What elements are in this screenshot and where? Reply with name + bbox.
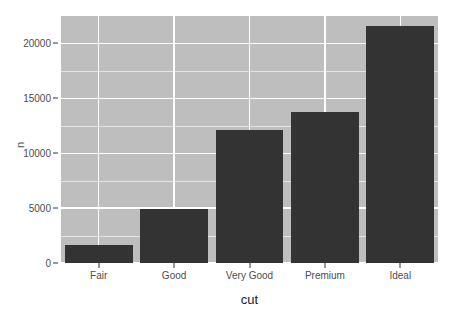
y-tick-mark	[53, 153, 58, 154]
y-tick-label: 20000	[23, 38, 51, 49]
x-tick-mark	[400, 263, 401, 268]
y-tick-mark	[53, 263, 58, 264]
plot-panel	[61, 16, 438, 263]
x-tick-mark	[324, 263, 325, 268]
bar-good	[140, 209, 208, 263]
y-axis: 05000100001500020000	[0, 0, 61, 319]
x-tick-mark	[174, 263, 175, 268]
y-tick-label: 10000	[23, 148, 51, 159]
x-tick-label-fair: Fair	[90, 270, 107, 281]
y-tick-mark	[53, 98, 58, 99]
bar-ideal	[366, 26, 434, 263]
x-axis: FairGoodVery GoodPremiumIdeal	[61, 263, 438, 293]
x-tick-label-premium: Premium	[305, 270, 345, 281]
bar-premium	[291, 112, 359, 263]
y-tick-label: 15000	[23, 93, 51, 104]
x-tick-label-ideal: Ideal	[389, 270, 411, 281]
x-axis-title: cut	[61, 292, 438, 307]
y-tick-label: 5000	[29, 203, 51, 214]
x-tick-mark	[249, 263, 250, 268]
bar-very-good	[216, 130, 284, 263]
y-tick-label: 0	[45, 258, 51, 269]
x-tick-mark	[98, 263, 99, 268]
bar-fair	[65, 245, 133, 263]
y-tick-mark	[53, 43, 58, 44]
x-tick-label-good: Good	[162, 270, 186, 281]
gridline-v-major	[98, 16, 99, 263]
y-tick-mark	[53, 208, 58, 209]
x-tick-label-very-good: Very Good	[226, 270, 273, 281]
bar-chart: n 05000100001500020000 FairGoodVery Good…	[0, 0, 454, 319]
